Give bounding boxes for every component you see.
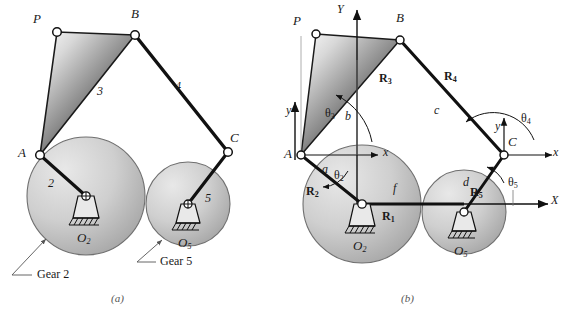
ground-label-o5-a: O5 [178,236,191,251]
link-number-3: 3 [97,85,103,97]
joint-a [36,151,45,160]
length-c: c [434,104,439,116]
link-number-5: 5 [205,192,211,204]
vector-r4-line [400,40,504,155]
ground-label-o5-b: O5 [454,244,467,259]
point-label-c-a: C [230,131,239,144]
length-f: f [393,182,396,194]
point-label-p-b: P [293,14,301,27]
ground-label-o2-b: O2 [353,239,366,254]
joint-p-b [312,30,320,38]
angle-theta4: θ4 [521,112,531,126]
joint-a-b [297,151,305,159]
angle-theta3: θ3 [325,107,335,121]
length-d: d [463,176,469,188]
point-label-a-a: A [18,146,26,159]
joint-b-b [396,36,404,44]
vector-r1: R1 [382,210,395,224]
point-label-a-b: A [284,147,292,160]
point-label-c-b: C [508,135,517,148]
ground-label-o2-a: O2 [77,231,90,246]
length-b: b [345,110,351,122]
angle-theta2: θ2 [334,169,344,183]
axis-label-y-at-a: y [286,104,291,116]
point-label-b-b: B [396,11,404,24]
link-number-4: 4 [175,80,181,92]
axis-label-Y: Y [337,3,344,15]
length-a: a [322,163,328,175]
axis-label-X: X [551,194,558,206]
point-label-b-a: B [131,7,139,20]
vector-r5: R5 [470,186,483,200]
axis-label-y-at-c: y [495,120,500,132]
gear-5-callout: Gear 5 [160,255,192,267]
joint-b [131,31,140,40]
gear-2-callout: Gear 2 [37,268,69,280]
panel-a-graphics [12,28,232,275]
point-label-p-a: P [33,12,41,25]
figure-canvas: P B A C 3 4 2 5 O2 O5 Gear 2 Gear 5 (a) … [0,0,569,316]
axis-label-x-at-c: x [553,146,558,158]
axis-label-x-at-a: x [383,146,388,158]
link-4 [135,35,228,152]
gear-5-leader [137,240,162,262]
coupler-link-3-b [301,34,400,155]
vector-r4: R4 [444,70,457,84]
vector-r3: R3 [379,72,392,86]
joint-c-b [500,151,508,159]
joint-p [53,28,62,37]
angle-theta5: θ5 [508,176,518,190]
link-number-2: 2 [48,177,54,189]
vector-r2: R2 [306,185,319,199]
caption-a: (a) [111,293,124,304]
caption-b: (b) [401,293,414,304]
joint-c [224,148,233,157]
